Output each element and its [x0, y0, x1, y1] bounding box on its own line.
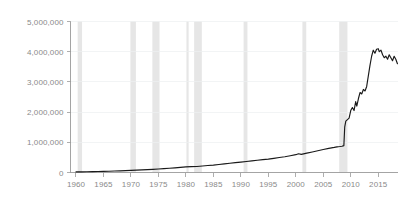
recession-band [78, 22, 82, 173]
line-chart: 01,000,0002,000,0003,000,0004,000,0005,0… [0, 0, 405, 212]
x-tick-label: 1980 [177, 180, 196, 189]
x-tick-label: 1975 [149, 180, 168, 189]
x-tick-label: 1985 [204, 180, 223, 189]
y-tick-label: 1,000,000 [27, 138, 64, 147]
x-tick-label: 1960 [67, 180, 86, 189]
x-tick-label: 1990 [232, 180, 251, 189]
recession-band [194, 22, 202, 173]
y-tick-label: 0 [59, 169, 64, 178]
recession-band [302, 22, 306, 173]
x-tick-label: 1970 [122, 180, 141, 189]
recession-band [130, 22, 135, 173]
y-tick-label: 4,000,000 [27, 48, 64, 57]
data-series-line [76, 49, 397, 172]
y-tick-label: 2,000,000 [27, 108, 64, 117]
recession-bands-layer [78, 22, 348, 173]
y-tick-labels: 01,000,0002,000,0003,000,0004,000,0005,0… [27, 18, 64, 178]
data-series-layer [76, 49, 397, 172]
recession-band [152, 22, 159, 173]
x-tick-label: 2005 [314, 180, 333, 189]
x-tick-label: 2010 [342, 180, 361, 189]
y-axis [67, 22, 71, 173]
recession-band [186, 22, 188, 173]
x-tick-label: 2000 [287, 180, 306, 189]
gridlines-layer [71, 22, 399, 143]
x-tick-label: 2015 [369, 180, 388, 189]
x-tick-label: 1965 [94, 180, 113, 189]
x-tick-labels: 1960196519701975198019851990199520002005… [67, 180, 388, 189]
recession-band [244, 22, 248, 173]
recession-band [339, 22, 347, 173]
x-tick-label: 1995 [259, 180, 278, 189]
x-axis [71, 173, 399, 177]
y-tick-label: 3,000,000 [27, 78, 64, 87]
y-tick-label: 5,000,000 [27, 18, 64, 27]
chart-container: 01,000,0002,000,0003,000,0004,000,0005,0… [0, 0, 405, 212]
